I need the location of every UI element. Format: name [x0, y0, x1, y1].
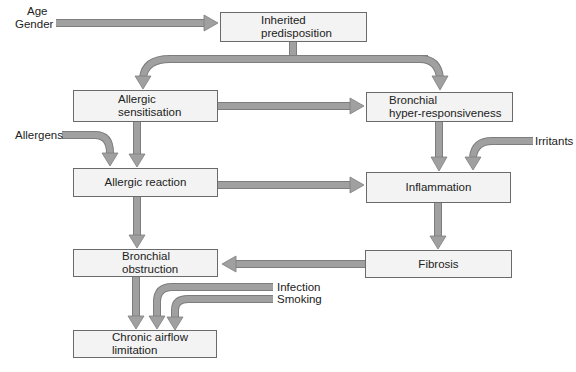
node-fibrosis: Fibrosis [365, 250, 512, 278]
label-smoking: Smoking [277, 293, 322, 306]
node-label: Inflammation [406, 181, 472, 194]
arrow-inflammation-to-fibrosis [430, 203, 446, 249]
arrow-infection-to-chronic [149, 287, 273, 329]
node-inflammation: Inflammation [366, 172, 511, 203]
arrow-hyperresponsiveness-to-inflammation [431, 122, 447, 171]
label-age: Age [27, 5, 47, 18]
arrow-allergens-to-reaction [62, 135, 118, 166]
arrow-irritants-to-inflammation [465, 141, 533, 170]
node-label: Bronchial [389, 94, 512, 107]
arrow-sensitisation-to-reaction [129, 122, 145, 167]
node-label: Allergic reaction [105, 176, 187, 189]
node-label: Chronic airflow [112, 331, 216, 344]
arrow-reaction-to-inflammation [218, 177, 364, 193]
node-bronchial-obstruction: Bronchial obstruction [73, 249, 218, 277]
arrow-fibrosis-to-obstruction [222, 256, 365, 272]
label-gender: Gender [15, 18, 53, 31]
node-inherited-predisposition: Inherited predisposition [220, 12, 367, 42]
node-label: limitation [112, 344, 216, 357]
node-allergic-reaction: Allergic reaction [73, 168, 218, 197]
arrow-reaction-to-obstruction [129, 196, 145, 248]
label-allergens: Allergens [15, 129, 63, 142]
node-label: Inherited [261, 14, 366, 27]
node-label: hyper-responsiveness [389, 107, 512, 120]
node-bronchial-hyperresponsiveness: Bronchial hyper-responsiveness [366, 92, 513, 122]
arrow-age-gender-to-inherited [56, 15, 218, 31]
node-label: Bronchial [122, 250, 217, 263]
node-label: Fibrosis [418, 258, 458, 271]
node-label: sensitisation [118, 106, 217, 119]
label-irritants: Irritants [535, 135, 573, 148]
node-chronic-airflow-limitation: Chronic airflow limitation [73, 330, 217, 358]
arrow-sensitisation-to-hyperresponsiveness [218, 98, 364, 114]
node-label: predisposition [261, 27, 366, 40]
node-allergic-sensitisation: Allergic sensitisation [73, 90, 218, 122]
node-label: obstruction [122, 263, 217, 276]
arrow-inherited-split [135, 41, 448, 90]
arrow-smoking-to-chronic [167, 299, 273, 330]
arrow-obstruction-to-chronic [128, 277, 144, 329]
node-label: Allergic [118, 93, 217, 106]
